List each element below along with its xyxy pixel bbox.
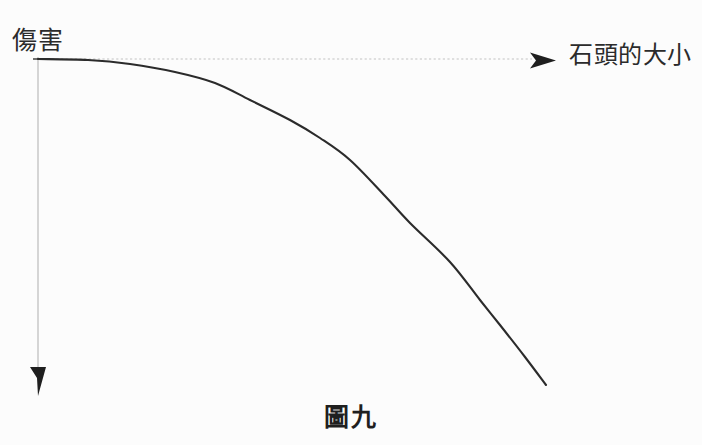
figure-caption: 圖九 [0, 403, 702, 433]
x-axis-label: 石頭的大小 [569, 41, 692, 69]
figure-container: 傷害 石頭的大小 圖九 [0, 0, 702, 445]
y-axis-label: 傷害 [12, 27, 63, 55]
y-axis-arrowhead [30, 367, 46, 396]
damage-curve [38, 59, 546, 385]
x-axis-arrowhead [530, 53, 556, 69]
